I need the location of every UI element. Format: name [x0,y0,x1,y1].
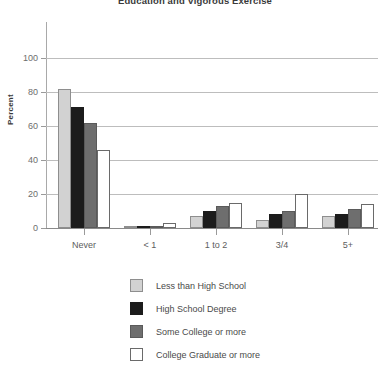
legend-label: High School Degree [156,304,237,314]
x-tick-mark [282,229,283,235]
legend-label: Less than High School [156,281,246,291]
legend-swatch [130,279,143,292]
chart-legend: Less than High SchoolHigh School DegreeS… [130,274,260,366]
bar [335,214,348,228]
bar-group [58,22,110,228]
legend-item: High School Degree [130,297,260,320]
y-tick-label: 20 [28,189,38,199]
y-tick-mark [41,228,46,229]
bar-chart: Education and Vigorous Exercise Percent … [0,0,390,370]
bar [163,223,176,228]
x-tick-label: 1 to 2 [205,240,228,250]
bar [58,89,71,228]
bar [84,123,97,228]
y-tick-label: 100 [23,53,38,63]
x-tick-label: 5+ [343,240,353,250]
x-tick-mark [150,229,151,235]
bar [216,206,229,228]
y-tick-mark [41,126,46,127]
y-tick-label: 0 [33,223,38,233]
bar [256,220,269,229]
y-tick-mark [41,92,46,93]
x-tick-label: 3/4 [276,240,289,250]
bar-group [322,22,374,228]
gridline [46,228,378,229]
x-tick-label: Never [72,240,96,250]
bar [137,226,150,228]
chart-title: Education and Vigorous Exercise [0,0,390,6]
y-tick-label: 80 [28,87,38,97]
y-tick-mark [41,194,46,195]
bar [295,194,308,228]
bar [71,107,84,228]
y-tick-label: 40 [28,155,38,165]
legend-swatch [130,348,143,361]
y-tick-label: 60 [28,121,38,131]
legend-item: College Graduate or more [130,343,260,366]
y-axis-title: Percent [6,94,15,125]
legend-swatch [130,302,143,315]
bar [282,211,295,228]
x-tick-mark [348,229,349,235]
x-tick-mark [84,229,85,235]
bar [190,216,203,228]
bar [269,214,282,228]
bar [229,203,242,229]
bar [322,216,335,228]
y-tick-mark [41,160,46,161]
bar [97,150,110,228]
bar-group [190,22,242,228]
bar [150,226,163,228]
legend-label: Some College or more [156,327,246,337]
legend-label: College Graduate or more [156,350,260,360]
legend-swatch [130,325,143,338]
x-tick-mark [216,229,217,235]
legend-item: Some College or more [130,320,260,343]
bar [348,209,361,228]
bar [361,204,374,228]
plot-area: 020406080100 [46,22,378,228]
legend-item: Less than High School [130,274,260,297]
y-tick-mark [41,58,46,59]
bar [203,211,216,228]
bar-group [256,22,308,228]
bar [124,226,137,228]
x-tick-label: < 1 [144,240,157,250]
bar-group [124,22,176,228]
